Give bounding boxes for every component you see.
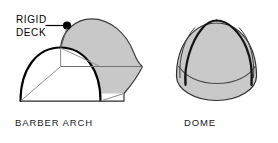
technical-diagram-svg: RIGID DECK BARBER ARCH	[0, 0, 278, 143]
arch-right-bottom-diagonal	[101, 94, 125, 102]
rigid-deck-label-line1: RIGID	[16, 14, 47, 25]
rigid-deck-label-line2: DECK	[16, 27, 46, 38]
dome-caption: DOME	[184, 117, 216, 128]
diagram-canvas: RIGID DECK BARBER ARCH	[0, 0, 278, 143]
dome-figure: DOME	[177, 21, 257, 129]
barber-arch-caption: BARBER ARCH	[15, 117, 93, 128]
barber-arch-figure: RIGID DECK BARBER ARCH	[15, 14, 143, 129]
arch-right-end-face	[98, 67, 143, 94]
